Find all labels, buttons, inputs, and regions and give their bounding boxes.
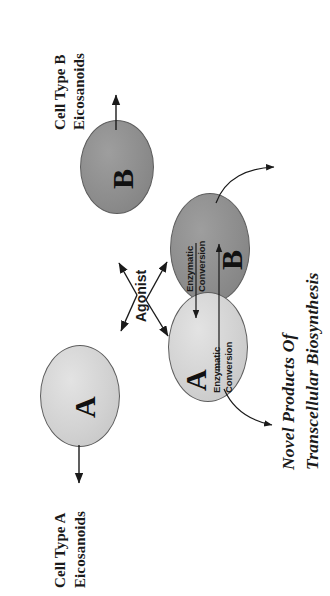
cell-type-b-output-label-line1: Cell Type B [52,54,69,130]
right-cell-a-letter: A [179,369,213,391]
left-cell-b-letter: B [106,169,140,189]
arrow-agonist-to-right-cell-a [146,300,168,336]
right-cell-a-conversion-label-line1: Enzymatic [211,347,222,393]
figure-title-line1: Novel Products Of [278,333,299,470]
right-cell-b-conversion-label-line2: Conversion [196,241,207,292]
right-cell-a-conversion-label-line2: Conversion [223,342,234,393]
agonist-label: Agonist [133,270,149,322]
right-cell-b-conversion-label-line1: Enzymatic [184,246,195,292]
figure-canvas: Cell Type B Eicosanoids B A Cell Type A … [0,0,330,596]
left-cell-a: A [40,345,120,447]
left-cell-b: B [80,120,154,214]
right-cell-b-letter: B [215,250,249,270]
arrow-agonist-to-right-cell-b [146,262,167,300]
left-cell-a-letter: A [68,396,102,418]
cell-type-a-output-label-line2: Eicosanoids [72,511,89,588]
right-cell-a: A Enzymatic Conversion [168,292,248,402]
arrow-layer [0,0,330,596]
right-cell-b: B Enzymatic Conversion [170,193,250,303]
cell-type-b-output-label-line2: Eicosanoids [71,53,88,130]
figure-title-line2: Transcellular Biosynthesis [302,272,323,470]
arrow-novel-product-from-a [224,389,272,425]
cell-type-a-output-label-line1: Cell Type A [52,512,69,588]
